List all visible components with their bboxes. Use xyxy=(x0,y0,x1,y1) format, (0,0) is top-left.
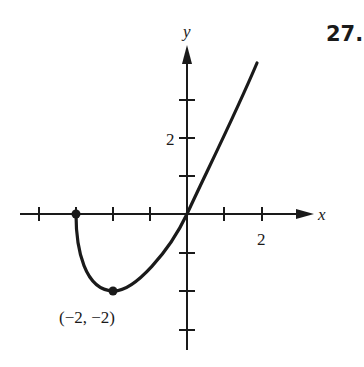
graph: y x 2 2 (−2, −2) xyxy=(0,0,364,367)
function-curve xyxy=(76,63,257,291)
y-axis-label: y xyxy=(181,22,191,41)
x-axis-arrow-icon xyxy=(296,209,314,219)
endpoint-marker xyxy=(72,210,81,219)
x-axis-label: x xyxy=(317,205,326,224)
minimum-marker xyxy=(109,287,118,296)
y-tick-label-2: 2 xyxy=(166,130,175,149)
minimum-point-label: (−2, −2) xyxy=(59,308,115,327)
y-axis-arrow-icon xyxy=(182,45,192,64)
x-tick-label-2: 2 xyxy=(257,230,266,249)
